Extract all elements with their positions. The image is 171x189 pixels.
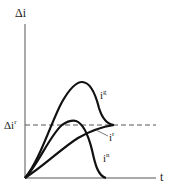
- curve-ig-label: ig: [100, 89, 107, 101]
- ir-leader-line: [96, 130, 108, 136]
- in-label-sup: n: [106, 151, 110, 159]
- curve-ir: [25, 125, 114, 178]
- current-response-diagram: [0, 0, 171, 189]
- reference-line-label: Δir: [4, 119, 16, 131]
- reference-label-base: Δi: [4, 119, 14, 131]
- x-axis-label: t: [160, 171, 163, 183]
- curve-in-label: in: [103, 152, 110, 164]
- ig-label-sup: g: [103, 88, 107, 96]
- curve-ir-label: ir: [109, 131, 114, 143]
- reference-label-sup: r: [14, 118, 16, 126]
- ir-label-sup: r: [112, 130, 114, 138]
- y-axis-label: Δi: [15, 7, 26, 19]
